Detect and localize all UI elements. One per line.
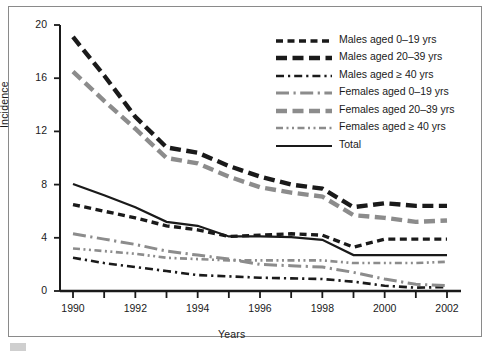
figure-container: Incidence Years 048121620199019921994199… (0, 0, 491, 356)
y-tick-label: 0 (25, 284, 47, 296)
legend-swatch (276, 85, 332, 97)
x-tick-label: 1996 (240, 302, 280, 314)
legend-swatch (276, 68, 332, 80)
legend-item[interactable]: Females aged 20–39 yrs (276, 100, 481, 118)
y-tick-label: 16 (25, 71, 47, 83)
legend-swatch (276, 33, 332, 45)
x-tick-label: 1994 (178, 302, 218, 314)
y-tick-label: 4 (25, 231, 47, 243)
legend-label: Males aged 20–39 yrs (339, 50, 442, 62)
y-axis-title: Incidence (0, 81, 10, 128)
legend-label: Total (339, 138, 361, 150)
legend-item[interactable]: Total (276, 135, 481, 153)
legend-label: Females aged 0–19 yrs (339, 85, 449, 97)
legend-item[interactable]: Males aged 20–39 yrs (276, 48, 481, 66)
legend-item[interactable]: Males aged ≥ 40 yrs (276, 65, 481, 83)
legend-label: Females aged ≥ 40 yrs (339, 120, 446, 132)
legend-label: Males aged 0–19 yrs (339, 33, 436, 45)
legend-label: Females aged 20–39 yrs (339, 103, 455, 115)
x-axis-title: Years (218, 328, 245, 340)
series-line (73, 205, 447, 248)
legend-swatch (276, 120, 332, 132)
legend-item[interactable]: Females aged ≥ 40 yrs (276, 118, 481, 136)
y-tick-label: 20 (25, 18, 47, 30)
x-tick-label: 1998 (302, 302, 342, 314)
x-tick-label: 2000 (365, 302, 405, 314)
y-tick-label: 8 (25, 178, 47, 190)
legend-swatch (276, 138, 332, 150)
x-tick-label: 1990 (53, 302, 93, 314)
legend-swatch (276, 50, 332, 62)
x-tick-label: 2002 (427, 302, 467, 314)
legend-label: Males aged ≥ 40 yrs (339, 68, 433, 80)
legend-item[interactable]: Females aged 0–19 yrs (276, 83, 481, 101)
x-tick-label: 1992 (115, 302, 155, 314)
chart-legend: Males aged 0–19 yrsMales aged 20–39 yrsM… (276, 30, 481, 153)
legend-swatch (276, 103, 332, 115)
y-tick-label: 12 (25, 124, 47, 136)
legend-item[interactable]: Males aged 0–19 yrs (276, 30, 481, 48)
